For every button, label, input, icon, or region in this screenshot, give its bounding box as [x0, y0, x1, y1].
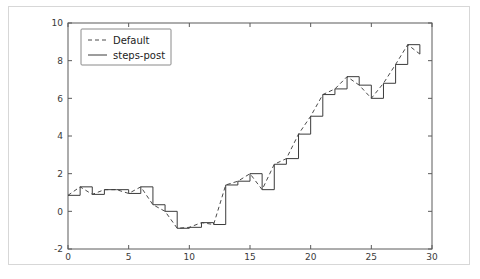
y-tick-label: 8: [57, 56, 63, 66]
legend-label-default: Default: [113, 35, 150, 46]
x-tick-label: 0: [65, 252, 71, 262]
series-line-default: [68, 45, 420, 229]
x-tick-label: 5: [126, 252, 132, 262]
series-line-steps-post: [68, 45, 420, 229]
y-tick-label: 4: [57, 131, 63, 141]
x-tick-label: 15: [244, 252, 255, 262]
x-axis-tick-labels: 051015202530: [65, 252, 438, 262]
x-tick-label: 30: [426, 252, 438, 262]
figure-frame: Default steps-post 051015202530 -2024681…: [8, 6, 470, 265]
x-tick-label: 20: [305, 252, 317, 262]
y-tick-label: 2: [57, 169, 63, 179]
y-tick-label: -2: [54, 244, 63, 254]
legend-label-steps-post: steps-post: [113, 50, 165, 61]
x-tick-label: 10: [184, 252, 196, 262]
y-tick-label: 6: [57, 94, 63, 104]
x-tick-label: 25: [366, 252, 377, 262]
y-tick-label: 10: [52, 18, 64, 28]
y-tick-label: 0: [57, 207, 63, 217]
chart-canvas: Default steps-post 051015202530 -2024681…: [9, 7, 469, 264]
y-axis-tick-labels: -20246810: [52, 18, 64, 254]
legend[interactable]: Default steps-post: [81, 29, 171, 65]
